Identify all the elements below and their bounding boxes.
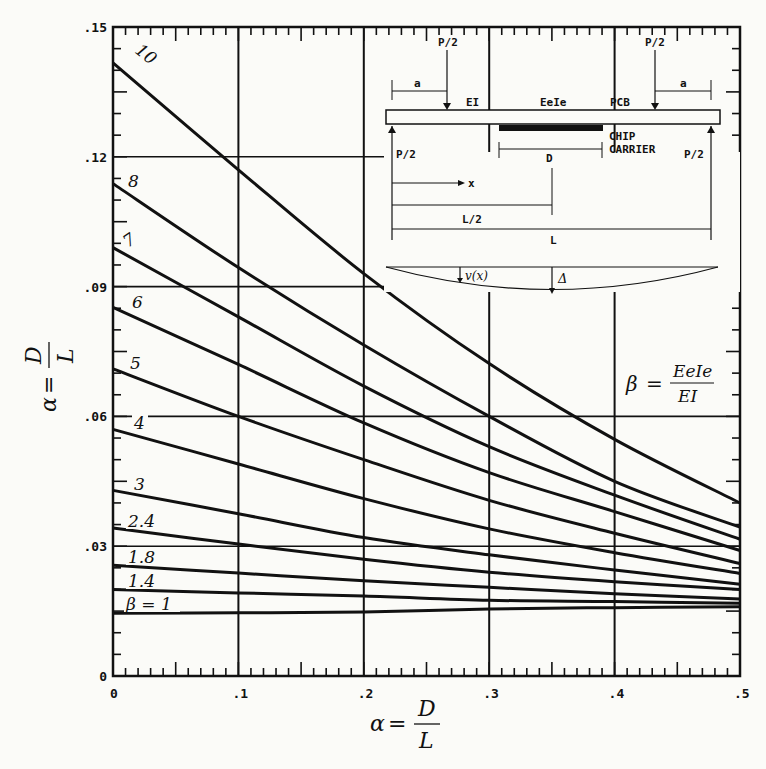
y-tick-label: .15 [84, 20, 107, 35]
dim-a-right-label: a [680, 77, 687, 90]
label-pcb: PCB [610, 96, 630, 109]
x-label-alpha: α [370, 711, 385, 736]
curve-labels: 108765432.41.81.4β = 1 [117, 38, 180, 614]
chart: 0.1.2.3.4.50.03.06.09.12.15 108765432.41… [0, 0, 766, 769]
dim-d-label: D [546, 152, 553, 165]
curve-label-10: 10 [132, 39, 162, 68]
y-axis-label: α = D L [21, 342, 78, 412]
y-tick-label: 0 [99, 669, 107, 684]
beta-numerator: EeIe [672, 361, 712, 381]
dim-l-label: L [550, 234, 557, 247]
x-tick-label: 0 [110, 686, 118, 701]
x-tick-label: .1 [232, 686, 248, 701]
load-label-top-left: P/2 [438, 36, 458, 49]
curve-label-3: 3 [134, 474, 145, 494]
beta-denominator: EI [677, 386, 697, 406]
load-label-bottom-right: P/2 [684, 148, 704, 161]
label-eeie: EeIe [540, 96, 567, 109]
beta-symbol: β [625, 372, 638, 396]
dim-a-left-label: a [414, 77, 421, 90]
x-label-denominator: L [418, 728, 434, 753]
dim-l-half-label: L/2 [462, 213, 482, 226]
curve-label-5: 5 [130, 353, 141, 373]
curve-beta-1 [113, 607, 740, 613]
curve-label-1: β = 1 [125, 594, 172, 614]
pcb-beam [386, 110, 720, 124]
label-ei: EI [466, 96, 479, 109]
y-label-denominator: L [53, 348, 78, 364]
x-label-numerator: D [417, 696, 436, 721]
arrowhead-icon [388, 126, 396, 133]
beta-formula: β = EeIe EI [620, 357, 730, 409]
y-tick-label: .12 [84, 150, 107, 165]
y-tick-label: .06 [84, 409, 108, 424]
y-tick-label: .03 [84, 539, 107, 554]
beam-diagram: P/2 P/2 a a EI EeIe PCB CHIP CARRIER P/2… [384, 36, 740, 294]
x-label-equals: = [388, 711, 406, 736]
y-label-equals: = [36, 376, 61, 394]
curve-beta-1.8 [113, 565, 740, 599]
dim-x-label: x [468, 177, 475, 190]
x-tick-label: .4 [609, 686, 625, 701]
x-tick-label: .5 [734, 686, 750, 701]
label-delta: Δ [557, 271, 567, 286]
y-tick-label: .09 [84, 280, 107, 295]
curve-label-1.8: 1.8 [128, 547, 155, 567]
curve-label-2.4: 2.4 [127, 511, 155, 531]
arrowhead-icon [707, 126, 715, 133]
arrowhead-icon [443, 103, 451, 110]
x-tick-label: .2 [358, 686, 374, 701]
chip-carrier-bar [499, 125, 603, 131]
label-chip: CHIP [609, 130, 636, 143]
curve-beta-4 [113, 429, 740, 573]
x-tick-label: .3 [483, 686, 499, 701]
y-label-numerator: D [21, 346, 46, 365]
curve-label-6: 6 [132, 292, 143, 312]
label-vx: v(x) [465, 269, 488, 283]
label-carrier: CARRIER [609, 143, 656, 156]
load-label-bottom-left: P/2 [396, 148, 416, 161]
curve-label-8: 8 [128, 171, 139, 191]
load-label-top-right: P/2 [645, 36, 665, 49]
equals-sign: = [646, 372, 663, 396]
curve-label-1.4: 1.4 [128, 571, 155, 591]
curve-label-4: 4 [133, 413, 145, 433]
arrowhead-icon [651, 103, 659, 110]
y-label-alpha: α [36, 397, 61, 412]
x-axis-label: α = D L [370, 696, 440, 753]
